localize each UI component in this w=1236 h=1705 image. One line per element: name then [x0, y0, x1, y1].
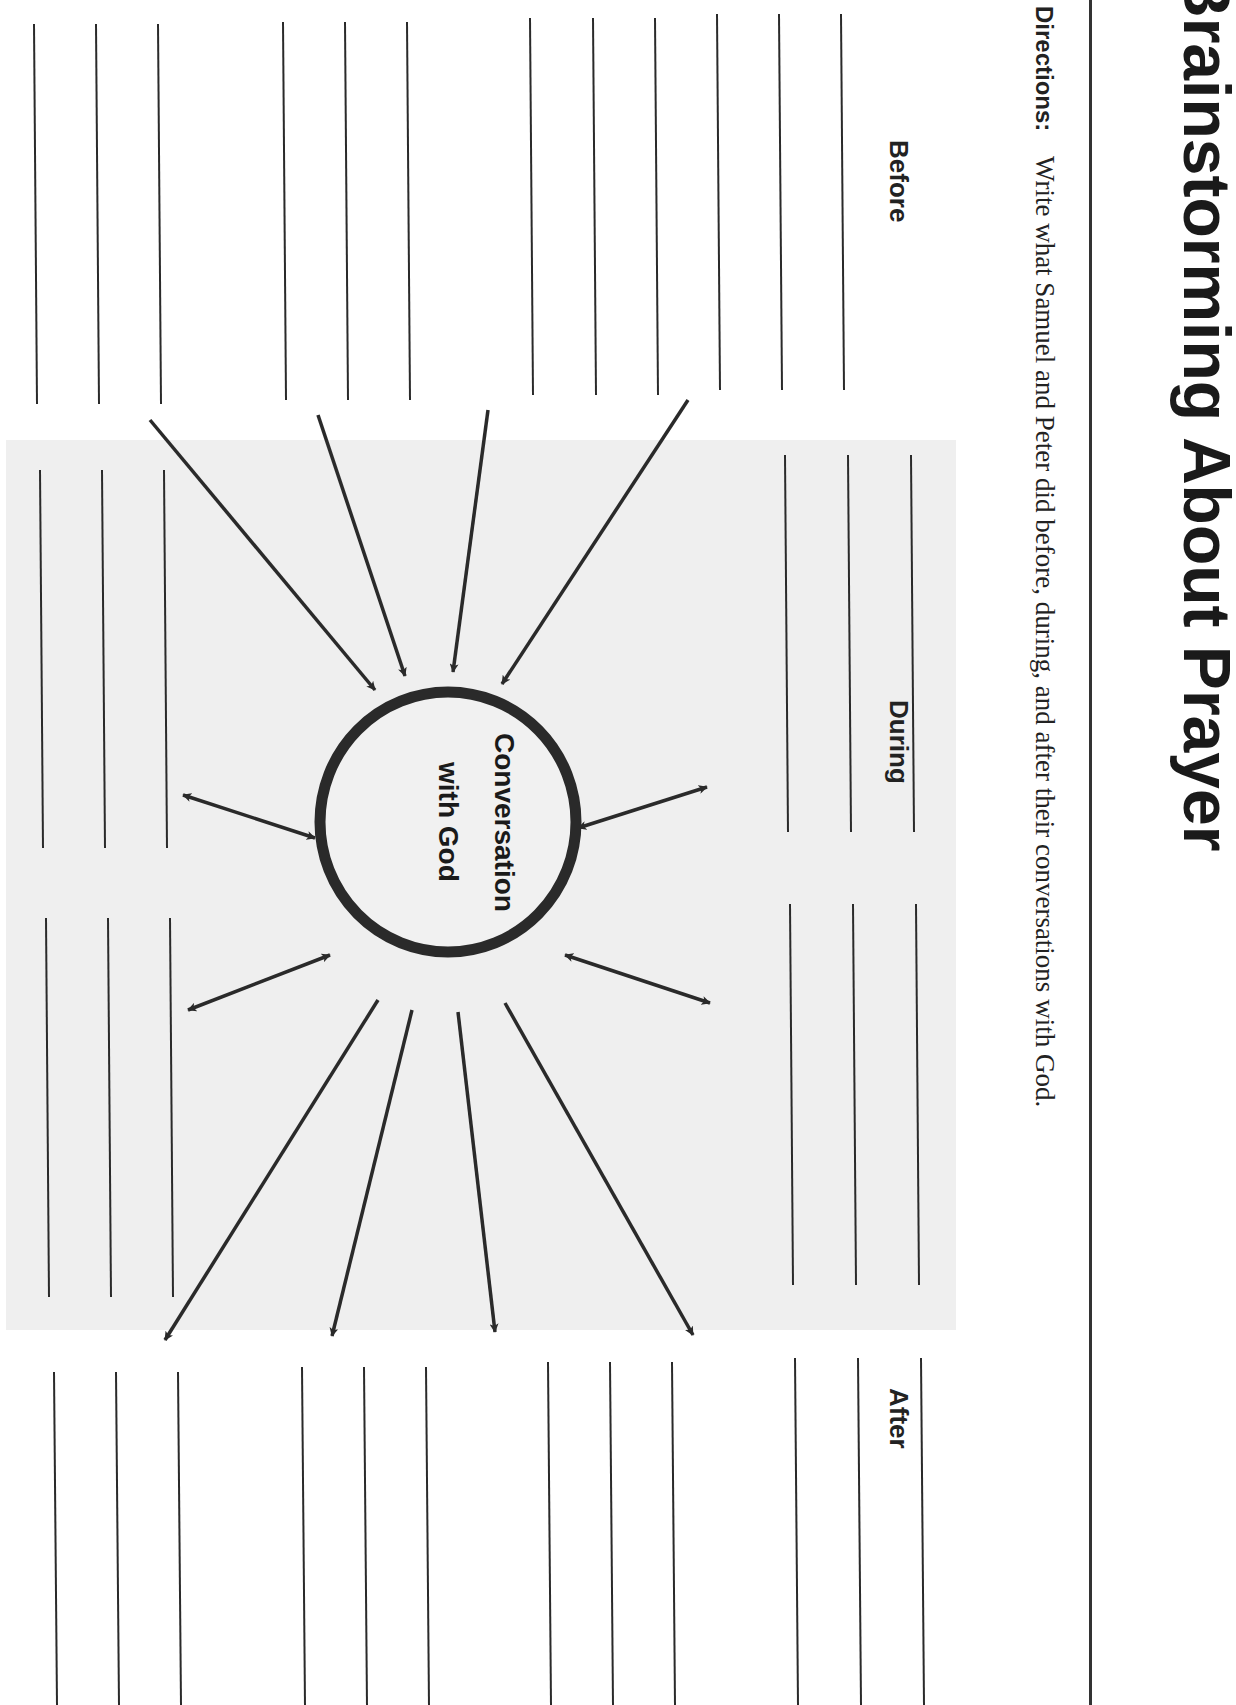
writing-line [717, 14, 720, 390]
writing-line [858, 1358, 861, 1705]
arrow-right-lower [565, 955, 710, 1003]
arrow-left-upper [183, 795, 315, 838]
arrow-after-1 [165, 1000, 378, 1340]
center-circle-line2: with God [434, 762, 462, 882]
writing-line [40, 470, 43, 848]
writing-line [672, 1362, 675, 1705]
writing-line [530, 18, 533, 395]
writing-line [407, 22, 410, 400]
writing-line [46, 918, 49, 1297]
writing-line [54, 1372, 57, 1705]
arrow-before-1 [150, 420, 375, 690]
writing-line [655, 18, 658, 395]
writing-line [158, 24, 161, 404]
arrow-right-upper [578, 787, 707, 828]
writing-line [785, 455, 788, 832]
writing-line [34, 24, 37, 404]
writing-line [345, 22, 348, 400]
writing-line [593, 18, 596, 395]
writing-line [102, 470, 105, 848]
center-circle-line1: Conversation [490, 733, 518, 912]
arrow-before-3 [453, 410, 488, 672]
writing-line [848, 455, 851, 832]
arrow-after-4 [505, 1003, 693, 1335]
writing-line [779, 14, 782, 390]
writing-line [790, 904, 793, 1285]
writing-line [178, 1372, 181, 1705]
writing-line [853, 904, 856, 1285]
writing-line [96, 24, 99, 404]
writing-line [302, 1367, 305, 1705]
writing-line [164, 470, 167, 848]
arrow-before-4 [502, 400, 688, 684]
writing-line [426, 1367, 429, 1705]
writing-line [911, 455, 914, 832]
arrow-after-2 [332, 1010, 412, 1336]
arrow-after-3 [458, 1012, 495, 1332]
arrow-left-lower [188, 955, 330, 1010]
writing-line [364, 1367, 367, 1705]
writing-line [283, 22, 286, 400]
writing-line [170, 918, 173, 1297]
writing-line [916, 904, 919, 1285]
writing-line [548, 1362, 551, 1705]
writing-line [610, 1362, 613, 1705]
writing-line [921, 1358, 924, 1705]
writing-line [108, 918, 111, 1297]
writing-line [841, 14, 844, 390]
writing-line [795, 1358, 798, 1705]
writing-line [116, 1372, 119, 1705]
